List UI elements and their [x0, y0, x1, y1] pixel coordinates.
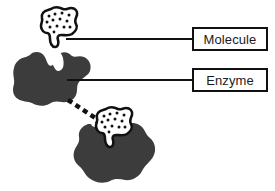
callout-label-enzyme: Enzyme — [206, 74, 254, 87]
callout-box-enzyme[interactable]: Enzyme — [192, 68, 268, 92]
enzyme-diagram: Molecule Enzyme — [0, 0, 275, 191]
dashed-binding-arrow — [68, 100, 100, 121]
callout-box-molecule[interactable]: Molecule — [192, 27, 268, 51]
molecule-blob-top — [41, 8, 77, 48]
callout-label-molecule: Molecule — [204, 33, 257, 46]
